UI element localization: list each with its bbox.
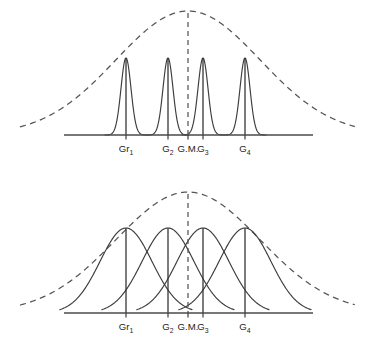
bottom-panel: Gr1G2G.M.G3G4 (20, 192, 355, 334)
top-panel-tick-label-2: G2 (162, 143, 173, 156)
bottom-panel-tick-label-4: G3 (197, 321, 208, 334)
bottom-panel-tick-label-5: G4 (239, 321, 250, 334)
top-panel-tick-label-5: G4 (239, 143, 250, 156)
bottom-panel-tick-label-1: Gr1 (119, 321, 134, 334)
top-panel-tick-label-3: G.M. (178, 143, 199, 154)
distribution-diagram-svg: Gr1G2G.M.G3G4Gr1G2G.M.G3G4 (0, 0, 375, 346)
bottom-panel-tick-label-2: G2 (162, 321, 173, 334)
statistics-figure: Gr1G2G.M.G3G4Gr1G2G.M.G3G4 (0, 0, 375, 346)
top-panel-tick-label-1: Gr1 (119, 143, 134, 156)
top-panel: Gr1G2G.M.G3G4 (20, 11, 355, 156)
top-panel-tick-label-4: G3 (197, 143, 208, 156)
bottom-panel-tick-label-3: G.M. (178, 321, 199, 332)
